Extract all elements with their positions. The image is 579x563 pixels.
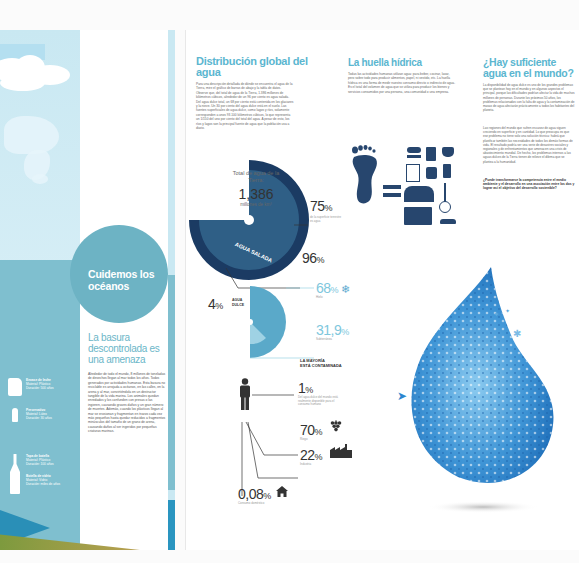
water-drop-illustration: ✦ ✦ ✱ ➤ bbox=[373, 255, 573, 515]
bottle-icon bbox=[10, 454, 20, 494]
trash-item: PreservativoMaterial: LátexDuración: 30 … bbox=[8, 408, 80, 422]
bag-icon bbox=[426, 167, 437, 179]
sneaker-icon bbox=[440, 219, 456, 224]
stat-caption: Industria bbox=[300, 463, 311, 467]
distribution-title: Distribución global del agua bbox=[196, 56, 326, 78]
infographic-spread: Cuidemos los océanos La basura descontro… bbox=[0, 0, 579, 563]
enough-water-body-2: Las regiones del mundo que sufren escase… bbox=[483, 126, 575, 164]
stat-irrigation: 70% bbox=[300, 422, 322, 438]
total-water-value: 1,386 bbox=[226, 187, 286, 201]
grapes-icon bbox=[330, 420, 342, 434]
sustainability-question: ¿Puede transformarse la competencia entr… bbox=[483, 178, 575, 191]
stat-fresh-water: 4% bbox=[208, 296, 223, 312]
house-icon bbox=[276, 486, 288, 497]
jug-icon bbox=[8, 378, 22, 396]
stat-industry: 22% bbox=[300, 447, 322, 463]
condom-icon bbox=[12, 408, 18, 422]
stat-surface-water: 75% bbox=[310, 198, 332, 214]
total-water-unit: millones de km³ bbox=[224, 202, 288, 207]
svg-text:✦: ✦ bbox=[505, 308, 510, 314]
footprint-icon bbox=[350, 145, 382, 205]
stat-ice: 68% ❄ bbox=[316, 280, 350, 296]
stat-caption: Del agua dulce del mundo está realmente … bbox=[298, 396, 338, 407]
snowflake-icon: ❄ bbox=[341, 283, 350, 295]
cloud-icon bbox=[0, 75, 45, 91]
footprint-title: La huella hídrica bbox=[348, 57, 478, 68]
sunglasses-icon bbox=[407, 147, 421, 153]
contamination-title: LA MAYORÍAESTÁ CONTAMINADA bbox=[300, 358, 342, 368]
distribution-body: Para una descripción detallada de dónde … bbox=[196, 82, 294, 130]
trash-item: Tapa de botellaMaterial: PlásticoDuració… bbox=[8, 454, 80, 494]
footprint-body: Todas las actividades humanas utilizan a… bbox=[348, 72, 456, 94]
guitar-body-icon bbox=[439, 201, 451, 213]
stat-domestic: 0,08% bbox=[238, 486, 271, 502]
stat-caption: Riego bbox=[300, 438, 308, 442]
trash-item: Envase de lecheMaterial: PlásticoDuració… bbox=[8, 378, 80, 396]
consumer-goods-icons bbox=[404, 147, 470, 225]
enough-water-body: La disponibilidad de agua dulce es uno d… bbox=[483, 83, 575, 112]
fresh-water-label: AGUADULCE bbox=[232, 298, 244, 307]
world-map-decoration bbox=[32, 174, 48, 184]
phone-icon bbox=[443, 164, 451, 178]
enough-water-title: ¿Hay suficiente agua en el mundo? bbox=[483, 57, 578, 78]
equals-icon bbox=[383, 185, 401, 199]
stat-caption: de la superficie terrestre es agua bbox=[310, 216, 342, 223]
jeans-icon bbox=[426, 147, 436, 161]
page-edge bbox=[168, 30, 175, 550]
section-title: Cuidemos los océanos bbox=[88, 268, 168, 292]
television-icon bbox=[404, 207, 432, 225]
svg-text:✦: ✦ bbox=[493, 310, 500, 319]
svg-text:➤: ➤ bbox=[397, 389, 407, 403]
stat-groundwater: 31,9% bbox=[316, 322, 349, 338]
subtitle: La basura descontrolada es una amenaza bbox=[88, 332, 168, 365]
stat-available: 1% bbox=[298, 380, 313, 396]
body-text: Alrededor de todo el mundo, 8 millones d… bbox=[88, 372, 166, 434]
stat-salt-water: 96% bbox=[302, 250, 324, 266]
stat-caption: Subterránea bbox=[316, 338, 332, 342]
shirt-icon bbox=[442, 147, 454, 157]
factory-icon bbox=[330, 444, 352, 458]
sunglasses-icon bbox=[407, 155, 421, 158]
world-map-decoration bbox=[4, 116, 59, 154]
piano-icon bbox=[404, 186, 434, 202]
person-icon bbox=[238, 378, 252, 410]
left-page: Cuidemos los océanos La basura descontro… bbox=[0, 30, 175, 550]
right-page: Distribución global del agua Para una de… bbox=[185, 30, 579, 550]
stat-caption: Hielo bbox=[316, 296, 323, 300]
stat-caption: Consumo doméstico bbox=[238, 502, 264, 506]
tank-top-icon bbox=[406, 164, 420, 182]
total-water-label: Total de agua de la Tierra: bbox=[226, 170, 286, 183]
svg-text:✱: ✱ bbox=[513, 328, 521, 339]
trash-panel bbox=[0, 260, 80, 550]
